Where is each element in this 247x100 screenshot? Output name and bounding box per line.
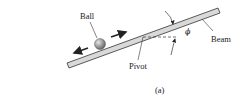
angle-arrow-top-icon — [165, 11, 173, 24]
motion-arrow-right-icon — [111, 32, 126, 37]
label-ball: Ball — [80, 11, 95, 21]
ball-leader-line — [90, 22, 97, 38]
motion-arrow-left-icon — [74, 48, 88, 53]
ball-and-beam-diagram: Ball Beam Pivot ϕ (a) — [0, 0, 247, 100]
figure-caption: (a) — [155, 85, 165, 95]
label-beam: Beam — [211, 34, 231, 44]
label-angle-phi: ϕ — [185, 27, 191, 36]
ball — [95, 39, 106, 50]
beam-leader-line — [202, 19, 213, 31]
label-pivot: Pivot — [129, 61, 148, 71]
angle-arrow-bottom-icon — [171, 39, 175, 55]
